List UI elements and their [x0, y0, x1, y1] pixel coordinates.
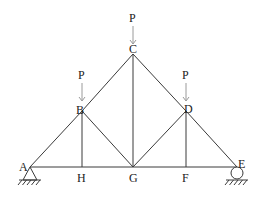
ground-hatch	[243, 180, 247, 185]
node-label-g: G	[129, 171, 138, 185]
node-label-c: C	[129, 42, 137, 56]
ground-hatch	[234, 180, 238, 185]
node-label-d: D	[184, 102, 193, 116]
ground-hatch	[27, 180, 31, 185]
node-labels: A B C D E F G H	[19, 42, 245, 185]
ground-hatch	[23, 180, 27, 185]
member-cd	[133, 54, 186, 111]
ground-hatch	[36, 180, 40, 185]
member-ab	[30, 111, 82, 167]
ground-hatch	[239, 180, 243, 185]
node-label-h: H	[77, 171, 86, 185]
node-label-b: B	[76, 103, 84, 117]
load-b: P	[78, 68, 85, 101]
load-d: P	[182, 68, 189, 101]
member-dg	[133, 111, 186, 167]
load-c: P	[129, 11, 136, 44]
node-label-f: F	[182, 171, 189, 185]
truss-diagram: PPP A B C D E F G H	[0, 0, 262, 208]
ground-hatch	[32, 180, 36, 185]
node-label-a: A	[19, 160, 28, 174]
ground-hatch	[230, 180, 234, 185]
member-bg	[82, 111, 133, 167]
load-label: P	[78, 68, 85, 82]
node-label-e: E	[238, 157, 245, 171]
load-label: P	[182, 68, 189, 82]
member-de	[186, 111, 237, 167]
truss-members	[30, 54, 237, 167]
member-bc	[82, 54, 133, 111]
load-label: P	[129, 11, 136, 25]
ground-hatch	[18, 180, 22, 185]
ground-hatch	[225, 180, 229, 185]
